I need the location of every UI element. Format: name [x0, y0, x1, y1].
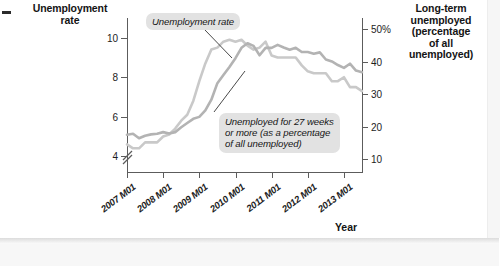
callout-long-term-unemployed: Unemployed for 27 weeks or more (as a pe…	[219, 113, 340, 153]
